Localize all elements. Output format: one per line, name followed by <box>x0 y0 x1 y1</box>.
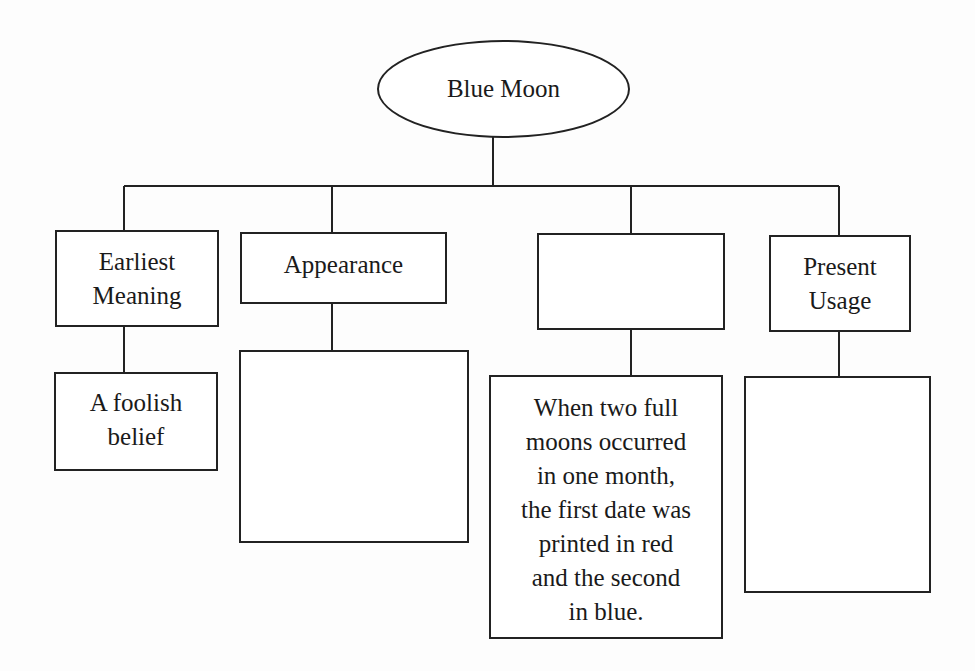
answer-box-appearance-blank[interactable] <box>239 350 469 543</box>
category-box-appearance: Appearance <box>240 232 447 304</box>
blue-moon-graphic-organizer: Blue Moon Earliest Meaning Appearance Pr… <box>0 0 975 671</box>
category-label: Earliest Meaning <box>93 245 182 313</box>
root-node-blue-moon: Blue Moon <box>377 40 630 138</box>
category-label: Appearance <box>284 248 403 282</box>
category-box-present-usage: Present Usage <box>769 235 911 332</box>
category-box-blank[interactable] <box>537 233 725 330</box>
answer-text: A foolish belief <box>90 386 182 454</box>
answer-text: When two full moons occurred in one mont… <box>521 391 691 629</box>
root-label: Blue Moon <box>447 75 560 103</box>
category-box-earliest-meaning: Earliest Meaning <box>55 230 219 327</box>
answer-box-third-category: When two full moons occurred in one mont… <box>489 375 723 639</box>
answer-box-present-usage-blank[interactable] <box>744 376 931 593</box>
category-label: Present Usage <box>803 250 877 318</box>
answer-box-earliest-meaning: A foolish belief <box>54 372 218 471</box>
